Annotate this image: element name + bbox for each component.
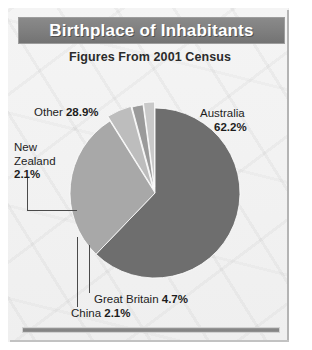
chart-figure: Birthplace of Inhabitants Figures From 2…: [0, 0, 312, 350]
slice-label-australia: Australia62.2%: [200, 107, 247, 134]
slice-label-china: China 2.1%: [71, 307, 130, 321]
leader-line-new-zealand-horizontal: [27, 210, 77, 211]
slice-label-china-name: China: [71, 307, 104, 319]
slice-label-other-name: Other: [34, 106, 66, 118]
slice-label-new-zealand: New Zealand 2.1%: [14, 141, 76, 182]
slice-label-other-value: 28.9%: [66, 106, 99, 118]
footer-rule: [22, 327, 280, 333]
slice-label-great-britain: Great Britain 4.7%: [94, 293, 188, 307]
slice-label-australia-name: Australia: [200, 107, 245, 119]
slice-label-australia-value: 62.2%: [214, 121, 247, 135]
leader-line-china: [77, 237, 78, 307]
leader-line-great-britain: [89, 245, 90, 293]
slice-label-great-britain-value: 4.7%: [162, 293, 188, 305]
slice-label-great-britain-name: Great Britain: [94, 293, 162, 305]
slice-label-china-value: 2.1%: [104, 307, 130, 319]
slice-label-new-zealand-name: New Zealand: [14, 141, 56, 167]
leader-line-new-zealand-vertical: [27, 178, 28, 211]
slice-label-other: Other 28.9%: [34, 106, 99, 120]
